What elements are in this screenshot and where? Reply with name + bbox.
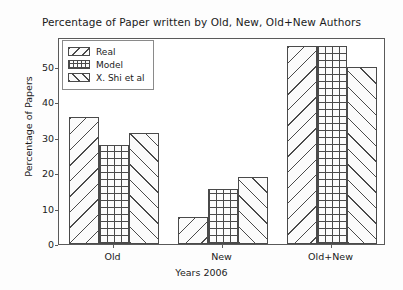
bar-x-shi-et-al-old xyxy=(129,133,159,244)
y-tick-mark xyxy=(55,139,58,140)
x-tick-mark xyxy=(113,245,114,248)
y-tick-mark xyxy=(55,245,58,246)
bar-real-new xyxy=(178,217,208,244)
legend-item-model: Model xyxy=(68,58,148,71)
x-tick-label-old-new: Old+New xyxy=(308,251,353,262)
y-tick-mark xyxy=(55,68,58,69)
x-tick-label-old: Old xyxy=(104,251,120,262)
legend-swatch-model-icon xyxy=(68,60,90,69)
legend-item-real: Real xyxy=(68,45,148,58)
bar-x-shi-et-al-old-new xyxy=(347,67,377,244)
legend-item-xshi: X. Shi et al xyxy=(68,71,148,84)
legend-label-model: Model xyxy=(96,60,123,70)
chart-legend: Real Model X. Shi et al xyxy=(62,40,154,90)
y-tick-label-10: 10 xyxy=(24,204,54,215)
y-tick-label-50: 50 xyxy=(24,62,54,73)
chart-figure: Percentage of Paper written by Old, New,… xyxy=(0,0,403,290)
legend-label-real: Real xyxy=(96,47,115,57)
bar-model-old xyxy=(99,145,129,244)
x-tick-label-new: New xyxy=(211,251,232,262)
y-tick-mark xyxy=(55,103,58,104)
y-tick-label-40: 40 xyxy=(24,97,54,108)
y-tick-mark xyxy=(55,210,58,211)
bar-real-old xyxy=(69,117,99,244)
bar-model-old-new xyxy=(317,46,347,244)
y-tick-label-20: 20 xyxy=(24,168,54,179)
x-tick-mark xyxy=(331,245,332,248)
legend-label-xshi: X. Shi et al xyxy=(96,73,145,83)
bar-x-shi-et-al-new xyxy=(238,177,268,244)
legend-swatch-xshi-icon xyxy=(68,73,90,82)
y-tick-label-30: 30 xyxy=(24,133,54,144)
legend-swatch-real-icon xyxy=(68,47,90,56)
y-tick-label-0: 0 xyxy=(24,239,54,250)
y-tick-mark xyxy=(55,174,58,175)
bar-real-old-new xyxy=(287,46,317,244)
bar-model-new xyxy=(208,189,238,244)
chart-title: Percentage of Paper written by Old, New,… xyxy=(0,16,403,28)
x-axis-label: Years 2006 xyxy=(0,267,403,278)
x-tick-mark xyxy=(222,245,223,248)
